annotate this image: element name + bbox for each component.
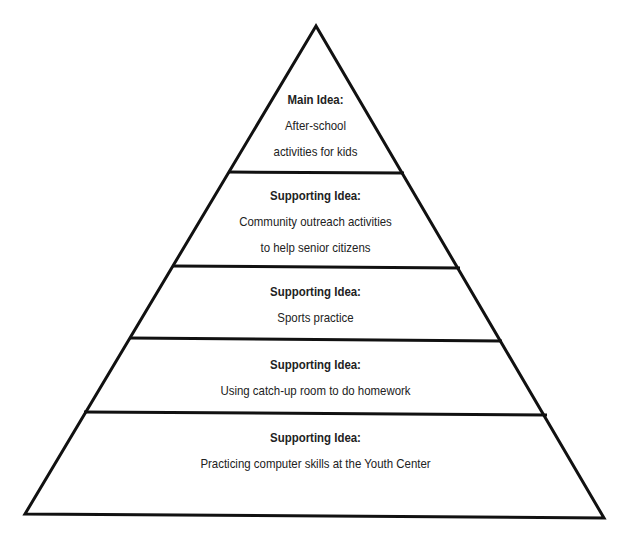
layer-line: activities for kids — [38, 139, 593, 165]
layer-heading: Main Idea: — [38, 87, 593, 113]
layer-heading: Supporting Idea: — [38, 425, 593, 451]
layer-line: After-school — [38, 113, 593, 139]
layer-line: Community outreach activities — [38, 209, 593, 235]
layer-divider-2 — [173, 266, 460, 268]
layer-supporting-idea-4: Supporting Idea: Practicing computer ski… — [0, 425, 631, 477]
layer-heading: Supporting Idea: — [38, 279, 593, 305]
layer-heading: Supporting Idea: — [38, 352, 593, 378]
layer-divider-1 — [229, 172, 404, 173]
layer-line: Using catch-up room to do homework — [38, 378, 593, 404]
layer-main-idea: Main Idea: After-school activities for k… — [0, 87, 631, 165]
layer-line: Sports practice — [38, 305, 593, 331]
layer-supporting-idea-1: Supporting Idea: Community outreach acti… — [0, 183, 631, 261]
layer-supporting-idea-2: Supporting Idea: Sports practice — [0, 279, 631, 331]
layer-supporting-idea-3: Supporting Idea: Using catch-up room to … — [0, 352, 631, 404]
layer-heading: Supporting Idea: — [38, 183, 593, 209]
layer-line: to help senior citizens — [38, 235, 593, 261]
layer-line: Practicing computer skills at the Youth … — [38, 451, 593, 477]
